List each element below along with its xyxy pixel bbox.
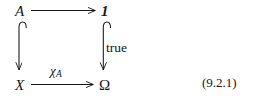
edge-label-true: true [106,41,127,55]
edge-label-chi-a: χA [50,64,62,79]
node-top-right-one: 1 [101,4,109,19]
arrow-a-to-x-hooked [19,22,26,69]
commutative-diagram-figure: A 1 X Ω true χA (9.2.1) [0,0,266,99]
node-top-left-a: A [15,4,24,19]
edge-label-chi-symbol: χ [50,63,56,78]
node-bottom-left-x: X [15,78,24,93]
equation-number: (9.2.1) [202,76,237,89]
node-bottom-right-omega: Ω [99,78,110,93]
edge-label-chi-subscript: A [56,69,62,79]
